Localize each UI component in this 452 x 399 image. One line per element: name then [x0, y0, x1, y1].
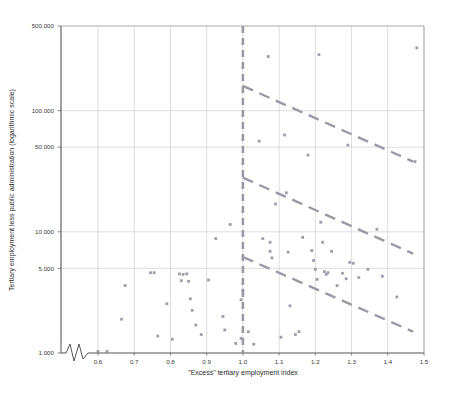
axis-break-icon	[61, 343, 88, 361]
data-point	[247, 330, 250, 333]
data-point	[171, 338, 174, 341]
data-point	[258, 140, 261, 143]
data-point	[149, 271, 152, 274]
data-point	[321, 241, 324, 244]
data-point	[187, 280, 190, 283]
data-point	[414, 160, 417, 163]
data-point	[415, 46, 418, 49]
x-tick-label: 1.5	[420, 358, 429, 365]
data-point	[194, 324, 197, 327]
data-point	[165, 302, 168, 305]
data-point	[366, 268, 369, 271]
data-point	[182, 273, 185, 276]
data-point	[207, 279, 210, 282]
data-point	[376, 228, 379, 231]
data-point	[261, 237, 264, 240]
data-point	[222, 315, 225, 318]
chart-canvas: 0.60.70.80.91.01.11.21.31.41.5 1.0005.00…	[0, 0, 452, 399]
data-point	[120, 318, 123, 321]
data-point	[316, 278, 319, 281]
data-point	[185, 272, 188, 275]
data-point	[312, 259, 315, 262]
data-point	[234, 342, 237, 345]
data-point	[347, 144, 350, 147]
x-tick-label: 0.9	[202, 358, 211, 365]
data-point	[269, 241, 272, 244]
data-point	[189, 297, 192, 300]
data-point	[310, 249, 313, 252]
data-point	[280, 336, 283, 339]
data-points	[97, 46, 419, 352]
x-tick-label: 1.0	[239, 358, 248, 365]
y-tick-label: 50.000	[35, 143, 54, 150]
data-point	[153, 271, 156, 274]
x-tick-label: 1.4	[383, 358, 392, 365]
data-point	[318, 53, 321, 56]
data-point	[200, 333, 203, 336]
data-point	[267, 55, 270, 58]
data-point	[283, 134, 286, 137]
data-point	[301, 236, 304, 239]
vertical-gridlines	[98, 26, 424, 353]
data-point	[319, 221, 322, 224]
data-point	[178, 272, 181, 275]
data-point	[327, 271, 330, 274]
y-axis-title: Tertiary employment less public administ…	[8, 89, 16, 291]
data-point	[289, 304, 292, 307]
scatter-chart-figure: 0.60.70.80.91.01.11.21.31.41.5 1.0005.00…	[0, 0, 452, 399]
data-point	[395, 296, 398, 299]
x-tick-label: 1.3	[347, 358, 356, 365]
data-point	[97, 350, 100, 353]
data-point	[330, 250, 333, 253]
x-tick-label: 0.6	[94, 358, 103, 365]
data-point	[294, 333, 297, 336]
data-point	[156, 335, 159, 338]
data-point	[287, 251, 290, 254]
data-point	[285, 191, 288, 194]
data-point	[269, 250, 272, 253]
data-point	[252, 343, 255, 346]
data-point	[270, 256, 273, 259]
x-axis-tick-labels: 0.60.70.80.91.01.11.21.31.41.5	[94, 358, 429, 365]
x-tick-label: 0.8	[166, 358, 175, 365]
data-point	[357, 276, 360, 279]
y-axis-tick-labels: 1.0005.00010.00050.000100.000500.000	[32, 22, 55, 356]
data-point	[298, 330, 301, 333]
data-point	[191, 309, 194, 312]
data-point	[323, 270, 326, 273]
data-point	[314, 268, 317, 271]
data-point	[229, 223, 232, 226]
data-point	[381, 275, 384, 278]
data-point	[180, 279, 183, 282]
y-tick-label: 5.000	[39, 265, 55, 272]
data-point	[124, 284, 127, 287]
y-tick-label: 1.000	[39, 349, 55, 356]
x-tick-label: 1.1	[275, 358, 284, 365]
data-point	[345, 277, 348, 280]
x-axis-title: "Excess" tertiary employment index	[188, 369, 298, 377]
y-tick-label: 500.000	[32, 22, 55, 29]
x-tick-label: 0.7	[130, 358, 139, 365]
data-point	[352, 262, 355, 265]
data-point	[307, 154, 310, 157]
data-point	[223, 329, 226, 332]
data-point	[106, 350, 109, 353]
data-point	[336, 284, 339, 287]
data-point	[214, 237, 217, 240]
x-tick-label: 1.2	[311, 358, 320, 365]
data-point	[341, 272, 344, 275]
data-point	[348, 261, 351, 264]
data-point	[240, 337, 243, 340]
data-point	[274, 203, 277, 206]
data-point	[241, 289, 244, 292]
data-point	[240, 298, 243, 301]
y-tick-label: 100.000	[32, 107, 55, 114]
y-tick-label: 10.000	[35, 228, 54, 235]
